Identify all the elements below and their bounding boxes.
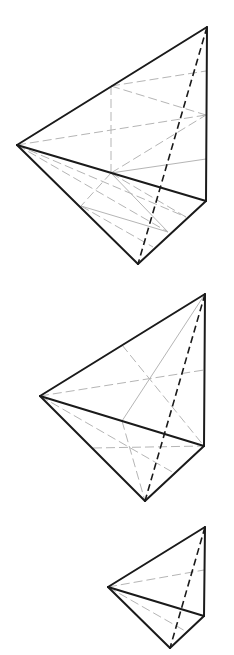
visible-edge [206, 27, 207, 201]
tetrahedra-diagram [0, 0, 234, 655]
visible-edge [204, 294, 205, 446]
background [0, 0, 234, 655]
visible-edge [204, 527, 205, 616]
